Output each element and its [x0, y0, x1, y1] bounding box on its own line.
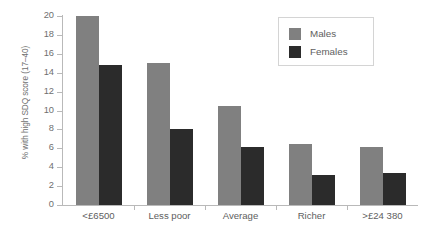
y-axis-tick-label: 18: [30, 30, 54, 39]
x-axis-separator: [347, 205, 348, 210]
bar-males: [360, 147, 383, 205]
legend-item-males: Males: [289, 25, 373, 42]
bar-males: [218, 106, 241, 205]
y-axis-tick-label: 0: [30, 200, 54, 209]
bar-females: [241, 147, 264, 205]
x-axis-separator: [134, 205, 135, 210]
y-axis-tick: [57, 111, 62, 112]
bar-females: [170, 129, 193, 205]
y-axis-tick-label: 14: [30, 68, 54, 77]
x-axis-category-label: Richer: [276, 211, 347, 222]
legend-label-females: Females: [310, 47, 348, 57]
bar-males: [289, 144, 312, 205]
bar-females: [312, 175, 335, 205]
y-axis-tick: [57, 54, 62, 55]
y-axis-tick-label: 6: [30, 143, 54, 152]
y-axis-tick-label: 8: [30, 124, 54, 133]
legend-item-females: Females: [289, 43, 373, 60]
y-axis-tick-label: 12: [30, 87, 54, 96]
x-axis-line: [62, 205, 418, 206]
y-axis-tick: [57, 73, 62, 74]
y-axis-tick: [57, 186, 62, 187]
bar-males: [76, 16, 99, 205]
y-axis-tick: [57, 92, 62, 93]
y-axis-tick-label: 16: [30, 49, 54, 58]
legend-swatch-icon-males: [289, 28, 301, 40]
x-axis-category-label: Average: [205, 211, 276, 222]
bar-males: [147, 63, 170, 205]
x-axis-category-label: >£24 380: [347, 211, 418, 222]
bar-chart: % with high SDQ score (17–40) 0246810121…: [0, 0, 425, 231]
y-axis-tick-label: 2: [30, 181, 54, 190]
legend-label-males: Males: [310, 29, 336, 39]
y-axis-tick: [57, 16, 62, 17]
x-axis-separator: [276, 205, 277, 210]
x-axis-category-label: <£6500: [63, 211, 134, 222]
chart-legend: Males Females: [278, 17, 374, 66]
x-axis-separator: [205, 205, 206, 210]
y-axis-tick: [57, 35, 62, 36]
bar-females: [383, 173, 406, 205]
bar-females: [99, 65, 122, 205]
y-axis-tick: [57, 205, 62, 206]
y-axis-tick: [57, 129, 62, 130]
y-axis-tick: [57, 167, 62, 168]
legend-swatch-icon-females: [289, 46, 301, 58]
y-axis-tick-label: 4: [30, 162, 54, 171]
y-axis-tick: [57, 148, 62, 149]
y-axis-tick-label: 20: [30, 11, 54, 20]
y-axis-tick-label: 10: [30, 106, 54, 115]
x-axis-category-label: Less poor: [134, 211, 205, 222]
